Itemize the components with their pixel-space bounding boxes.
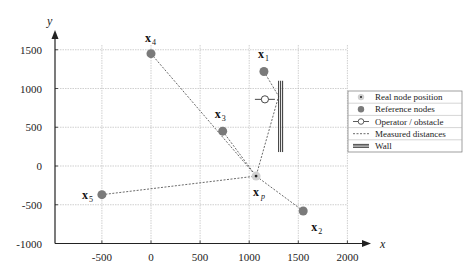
- measured-distance-line: [256, 71, 279, 176]
- x-tick-label: 0: [148, 251, 154, 263]
- svg-text:4: 4: [152, 38, 156, 47]
- y-tick-label: 0: [37, 160, 43, 172]
- legend-label: Operator / obstacle: [375, 117, 443, 127]
- legend-label: Real node position: [375, 92, 443, 102]
- node-label: x: [311, 220, 317, 234]
- legend-label: Wall: [375, 141, 392, 151]
- legend-label: Reference nodes: [375, 104, 435, 114]
- node-label: x: [145, 31, 151, 45]
- x-tick-label: 1000: [238, 251, 261, 263]
- axes: xy-5000500100015002000-1000-500050010001…: [16, 14, 386, 263]
- svg-text:5: 5: [89, 195, 93, 204]
- x-axis-label: x: [379, 237, 386, 251]
- svg-text:3: 3: [222, 114, 226, 123]
- chart-canvas: xy-5000500100015002000-1000-500050010001…: [0, 0, 465, 277]
- legend-label: Measured distances: [375, 129, 446, 139]
- x-tick-label: 2000: [336, 251, 359, 263]
- y-axis-arrow-icon: [52, 30, 59, 39]
- x-tick-label: 500: [192, 251, 209, 263]
- y-tick-label: 500: [26, 121, 43, 133]
- y-tick-label: 1500: [20, 44, 43, 56]
- svg-text:p: p: [260, 192, 265, 201]
- y-tick-label: 1000: [20, 83, 43, 95]
- measured-distance-line: [223, 131, 256, 176]
- reference-node-x4: x4: [145, 31, 156, 59]
- measured-distance-lines: [102, 54, 303, 211]
- svg-text:1: 1: [265, 54, 269, 63]
- x-tick-label: -500: [92, 251, 113, 263]
- measured-distance-line: [102, 176, 256, 195]
- operator-obstacle-icon: [255, 96, 275, 103]
- x-tick-label: 1500: [287, 251, 310, 263]
- reference-node-x1: x1: [258, 47, 269, 75]
- reference-node-x5: x5: [82, 188, 107, 204]
- svg-text:2: 2: [318, 227, 322, 236]
- wall: [279, 81, 283, 152]
- y-axis-label: y: [46, 14, 53, 28]
- reference-node-x2: x2: [299, 206, 323, 236]
- real-node-label: x: [253, 185, 259, 199]
- measured-distance-line: [151, 54, 256, 176]
- reference-nodes: x1x2x3x4x5: [82, 31, 322, 236]
- node-label: x: [258, 47, 264, 61]
- x-axis-arrow-icon: [362, 240, 371, 247]
- legend: Real node positionReference nodesOperato…: [348, 91, 462, 152]
- reference-node-x3: x3: [215, 107, 228, 136]
- y-tick-label: -1000: [16, 238, 42, 250]
- y-tick-label: -500: [22, 199, 43, 211]
- real-node: xp: [252, 172, 266, 202]
- node-label: x: [215, 107, 221, 121]
- node-label: x: [82, 188, 88, 202]
